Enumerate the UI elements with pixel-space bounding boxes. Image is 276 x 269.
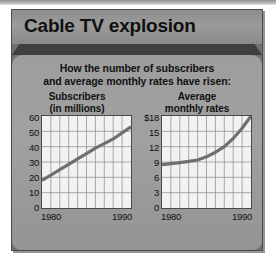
chart-monthly-rates: Average monthly rates $18 15 12 9 6 3 0 bbox=[138, 91, 256, 227]
y-tick: 0 bbox=[154, 202, 159, 213]
x-tick: 1980 bbox=[161, 211, 181, 222]
chart-monthly-rates-plot-wrap: $18 15 12 9 6 3 0 bbox=[138, 115, 256, 227]
x-tick: 1990 bbox=[232, 211, 252, 222]
page-title: Cable TV explosion bbox=[24, 15, 196, 37]
figure-body: How the number of subscribers and averag… bbox=[12, 55, 262, 250]
chart-subscribers-plot-area bbox=[41, 115, 132, 209]
chart-subscribers-title: Subscribers bbox=[18, 91, 136, 103]
figure-subtitle: How the number of subscribers and averag… bbox=[12, 62, 262, 87]
y-tick: 12 bbox=[149, 142, 159, 153]
scan-top-edge bbox=[0, 0, 276, 5]
chart-subscribers-x-axis: 1980 1990 bbox=[41, 211, 132, 222]
x-tick: 1990 bbox=[112, 211, 132, 222]
y-tick: 20 bbox=[29, 172, 39, 183]
y-tick: 10 bbox=[29, 187, 39, 198]
header-shelf-decoration bbox=[12, 44, 262, 55]
y-tick: 6 bbox=[154, 172, 159, 183]
y-tick: 9 bbox=[154, 157, 159, 168]
chart-monthly-rates-y-axis: $18 15 12 9 6 3 0 bbox=[138, 115, 160, 209]
y-tick: 40 bbox=[29, 142, 39, 153]
figure-subtitle-line2: and average monthly rates have risen: bbox=[12, 75, 262, 88]
chart-subscribers: Subscribers (in millions) 60 50 40 30 20… bbox=[18, 91, 136, 227]
chart-subscribers-svg bbox=[42, 116, 131, 208]
chart-monthly-rates-plot-area bbox=[161, 115, 252, 209]
chart-subscribers-y-axis: 60 50 40 30 20 10 0 bbox=[18, 115, 40, 209]
chart-monthly-rates-x-axis: 1980 1990 bbox=[161, 211, 252, 222]
y-tick: 0 bbox=[34, 202, 39, 213]
y-tick: 3 bbox=[154, 187, 159, 198]
y-tick: $18 bbox=[144, 112, 159, 123]
x-tick: 1980 bbox=[41, 211, 61, 222]
y-tick: 60 bbox=[29, 112, 39, 123]
chart-subscribers-plot-wrap: 60 50 40 30 20 10 0 bbox=[18, 115, 136, 227]
y-tick: 50 bbox=[29, 127, 39, 138]
chart-monthly-rates-title: Average bbox=[138, 91, 256, 103]
figure-subtitle-line1: How the number of subscribers bbox=[12, 62, 262, 75]
y-tick: 15 bbox=[149, 127, 159, 138]
grid-lines bbox=[42, 116, 131, 208]
figure-header: Cable TV explosion bbox=[12, 10, 262, 44]
figure-frame: Cable TV explosion How the number of sub… bbox=[11, 9, 263, 251]
charts-row: Subscribers (in millions) 60 50 40 30 20… bbox=[12, 91, 262, 227]
chart-monthly-rates-svg bbox=[162, 116, 251, 208]
y-tick: 30 bbox=[29, 157, 39, 168]
